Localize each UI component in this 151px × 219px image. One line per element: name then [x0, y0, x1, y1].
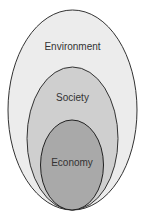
economy-label: Economy [51, 157, 93, 168]
nested-sustainability-diagram: Environment Society Economy [0, 0, 151, 219]
environment-label: Environment [44, 41, 100, 52]
society-label: Society [56, 92, 89, 103]
